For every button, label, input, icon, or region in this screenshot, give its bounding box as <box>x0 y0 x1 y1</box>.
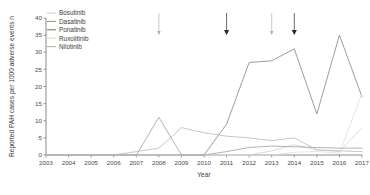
pah-cases-line-chart: 0510152025303540 20032004200520062007200… <box>0 0 370 195</box>
x-tick-label: 2017 <box>355 159 369 166</box>
legend-label-ruxolitinib: Ruxolitinib <box>59 35 89 42</box>
x-tick-label: 2012 <box>242 159 256 166</box>
y-tick-label: 10 <box>35 117 42 124</box>
x-tick-label: 2016 <box>333 159 347 166</box>
x-tick-label: 2007 <box>129 159 143 166</box>
y-tick-label: 40 <box>35 14 42 21</box>
x-tick-label: 2011 <box>220 159 234 166</box>
chart-legend: BosutinibDasatinibPonatinibRuxolitinibNi… <box>47 9 89 50</box>
approval-arrow-2008 <box>157 13 161 35</box>
x-tick-label: 2005 <box>84 159 98 166</box>
annotation-arrows <box>157 13 297 35</box>
series-line-ponatinib <box>46 35 362 155</box>
legend-label-bosutinib: Bosutinib <box>59 9 86 16</box>
y-tick-label: 5 <box>39 134 43 141</box>
x-tick-label: 2015 <box>310 159 324 166</box>
x-tick-label: 2003 <box>39 159 53 166</box>
x-tick-label: 2009 <box>175 159 189 166</box>
series-line-bosutinib <box>46 128 362 155</box>
x-tick-label: 2006 <box>107 159 121 166</box>
y-tick-label: 25 <box>35 66 42 73</box>
x-axis-title: Year <box>197 171 211 178</box>
x-tick-label: 2013 <box>265 159 279 166</box>
series-lines <box>46 35 362 155</box>
y-axis-title: Reported PAH cases per 1000 adverse even… <box>8 16 16 157</box>
x-tick-label: 2008 <box>152 159 166 166</box>
y-tick-label: 30 <box>35 48 42 55</box>
y-tick-label: 15 <box>35 100 42 107</box>
x-tick-label: 2014 <box>287 159 301 166</box>
legend-label-ponatinib: Ponatinib <box>59 26 86 33</box>
series-line-ruxolitinib <box>46 93 362 155</box>
y-tick-label: 35 <box>35 31 42 38</box>
y-tick-label: 0 <box>39 151 43 158</box>
y-axis: 0510152025303540 <box>35 14 46 158</box>
approval-arrow-2011 <box>224 13 229 35</box>
legend-label-nilotinib: Nilotinib <box>59 43 82 50</box>
x-tick-label: 2010 <box>197 159 211 166</box>
approval-arrow-2014 <box>292 13 297 35</box>
x-axis: 2003200420052006200720082009201020112012… <box>39 155 369 166</box>
approval-arrow-2013 <box>270 13 274 35</box>
legend-label-dasatinib: Dasatinib <box>59 18 86 25</box>
series-line-nilotinib <box>46 128 362 155</box>
chart-canvas: 0510152025303540 20032004200520062007200… <box>0 0 370 195</box>
x-tick-label: 2004 <box>62 159 76 166</box>
y-tick-label: 20 <box>35 83 42 90</box>
